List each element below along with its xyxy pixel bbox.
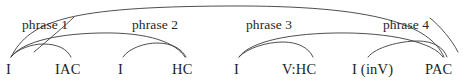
terminal-label-iac: IAC: [55, 62, 81, 77]
phrase-label-1: phrase 1: [22, 18, 68, 32]
arc-i1-hc: [11, 33, 185, 57]
arc-i3-pac: [239, 33, 443, 57]
terminal-label-i-1: I: [6, 62, 11, 77]
terminal-label-i-2: I: [118, 62, 123, 77]
terminal-label-vhc: V:HC: [282, 62, 316, 77]
terminal-label-i-3: I: [234, 62, 239, 77]
connector-phrase-4-leader: [430, 18, 458, 52]
phrase-label-3: phrase 3: [246, 18, 292, 32]
phrase-label-2: phrase 2: [132, 18, 178, 32]
phrase-label-4: phrase 4: [383, 18, 429, 32]
arc-i3-vhc: [239, 42, 313, 57]
terminal-label-i-inv: I (inV): [352, 62, 393, 77]
phrase-arc-diagram: phrase 1 phrase 2 phrase 3 phrase 4 I IA…: [0, 0, 471, 80]
arc-i2-hc: [123, 43, 186, 57]
terminal-label-pac: PAC: [425, 62, 452, 77]
terminal-label-hc: HC: [172, 62, 193, 77]
